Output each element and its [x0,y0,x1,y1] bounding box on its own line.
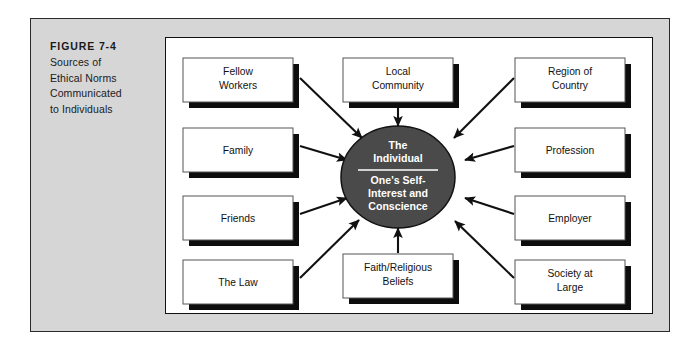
node-region-of-country[interactable]: Region of Country [515,58,631,108]
node-label: Large [557,282,584,293]
node-label: The Law [218,277,258,288]
figure-number-label: FIGURE 7-4 [50,38,158,54]
node-label: Workers [219,80,257,91]
center-body-line-3: Conscience [368,200,428,212]
center-heading-line-1: The [389,139,408,151]
caption-line-3: Communicated [50,86,158,102]
node-label: Beliefs [383,276,414,287]
node-profession[interactable]: Profession [515,128,631,178]
node-the-law[interactable]: The Law [183,260,299,310]
sources-of-ethical-norms-diagram: Fellow Workers Family Friends The Law [166,38,652,313]
center-body-line-1: One's Self- [371,174,426,186]
figure-root: FIGURE 7-4 Sources of Ethical Norms Comm… [0,0,680,353]
node-label: Country [552,80,589,91]
diagram-panel: Fellow Workers Family Friends The Law [165,37,653,314]
node-family[interactable]: Family [183,128,299,178]
caption-line-4: to Individuals [50,102,158,118]
node-fellow-workers[interactable]: Fellow Workers [183,58,299,108]
arrow-profession-to-center [465,146,514,160]
node-label: Fellow [223,66,253,77]
node-local-community[interactable]: Local Community [343,58,459,108]
node-label: Friends [221,213,255,224]
node-label: Local [386,66,411,77]
node-label: Profession [546,145,595,156]
arrow-society-at-large-to-center [455,221,514,278]
node-label: Society at [547,268,592,279]
node-faith-religious-beliefs[interactable]: Faith/Religious Beliefs [343,254,459,304]
arrow-friends-to-center [300,198,347,214]
node-society-at-large[interactable]: Society at Large [515,260,631,310]
node-label: Community [372,80,425,91]
node-label: Faith/Religious [364,262,432,273]
center-heading-line-2: Individual [373,152,422,164]
caption-line-2: Ethical Norms [50,71,158,87]
node-label: Region of [548,66,592,77]
central-individual-node[interactable]: The Individual One's Self- Interest and … [341,126,455,228]
node-label: Employer [548,213,592,224]
figure-caption: FIGURE 7-4 Sources of Ethical Norms Comm… [50,38,158,117]
arrow-region-of-country-to-center [454,78,514,138]
arrow-family-to-center [300,146,347,160]
node-employer[interactable]: Employer [515,196,631,246]
arrow-employer-to-center [465,198,514,214]
node-friends[interactable]: Friends [183,196,299,246]
caption-line-1: Sources of [50,55,158,71]
center-body-line-2: Interest and [368,187,428,199]
node-label: Family [223,145,254,156]
